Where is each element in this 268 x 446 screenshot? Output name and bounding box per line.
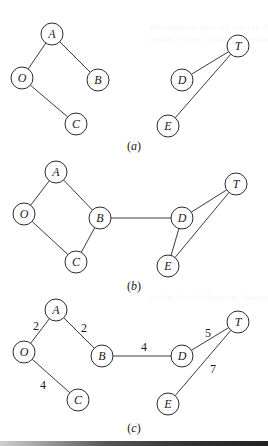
node-label: A [51, 165, 60, 179]
node-label: O [20, 207, 29, 221]
panel-caption-b: (b) [127, 279, 141, 293]
edge-weight-label: 5 [205, 326, 211, 340]
panel-caption-c: (c) [127, 421, 140, 435]
node-b-E: E [157, 255, 179, 277]
node-label: E [163, 397, 172, 411]
graph-figure: the minimum network one can find by leng… [0, 0, 268, 446]
node-c-B: B [91, 345, 113, 367]
node-c-O: O [13, 341, 35, 363]
node-a-D: D [171, 69, 193, 91]
node-label: A [51, 303, 60, 317]
node-c-T: T [227, 311, 249, 333]
node-a-C: C [65, 113, 87, 135]
node-c-C: C [67, 389, 89, 411]
node-label: D [177, 73, 187, 87]
edge-weight-label: 2 [81, 321, 87, 335]
edge-weight-label: 4 [40, 378, 46, 392]
node-label: O [20, 345, 29, 359]
edge-a-A-B [60, 42, 90, 72]
node-label: D [177, 349, 187, 363]
edge-weight-label: 2 [33, 319, 39, 333]
edge-c-O-C [32, 359, 70, 392]
node-b-T: T [225, 173, 247, 195]
svg-text:orithm for the Minimum Spannin: orithm for the Minimum Spanning Tree Pr [150, 292, 268, 302]
edge-b-D-E [171, 229, 179, 256]
node-label: B [98, 349, 106, 363]
node-a-T: T [227, 35, 249, 57]
node-a-B: B [87, 69, 109, 91]
edge-b-A-B [64, 180, 93, 210]
node-label: B [94, 73, 102, 87]
node-a-O: O [11, 67, 33, 89]
svg-text:length of time or finding the: length of time or finding the shortest [150, 34, 268, 44]
captions-layer: (a)(b)(c) [127, 139, 141, 435]
node-label: D [177, 211, 187, 225]
node-label: C [72, 255, 81, 269]
node-c-E: E [157, 393, 179, 415]
node-c-D: D [171, 345, 193, 367]
edge-a-O-C [30, 85, 67, 117]
edge-b-O-C [32, 221, 68, 254]
svg-text:the minimum network one can fi: the minimum network one can find by [150, 22, 268, 32]
node-label: C [74, 393, 83, 407]
edge-c-A-B [64, 318, 94, 348]
node-a-E: E [157, 115, 179, 137]
node-b-C: C [65, 251, 87, 273]
edge-weight-label: 4 [141, 340, 147, 354]
node-b-B: B [89, 207, 111, 229]
edge-a-A-O [28, 43, 46, 69]
node-label: E [163, 259, 172, 273]
edge-b-A-O [31, 181, 50, 206]
edges-layer [28, 42, 231, 396]
node-label: B [96, 211, 104, 225]
node-label: A [47, 27, 56, 41]
node-b-O: O [13, 203, 35, 225]
panel-caption-a: (a) [127, 139, 141, 153]
node-b-D: D [171, 207, 193, 229]
node-a-A: A [41, 23, 63, 45]
page-edge-shadow [0, 441, 268, 446]
edge-b-B-C [81, 228, 94, 253]
node-b-A: A [45, 161, 67, 183]
node-label: O [18, 71, 27, 85]
node-label: E [163, 119, 172, 133]
node-c-A: A [45, 299, 67, 321]
edge-weight-label: 7 [210, 362, 216, 376]
node-label: C [72, 117, 81, 131]
